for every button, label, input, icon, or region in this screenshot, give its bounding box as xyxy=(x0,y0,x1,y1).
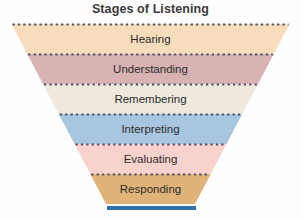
band-label-evaluating: Evaluating xyxy=(0,152,301,166)
band-label-responding: Responding xyxy=(0,182,301,196)
page-title: Stages of Listening xyxy=(0,1,301,17)
base-bar xyxy=(107,206,196,210)
band-label-interpreting: Interpreting xyxy=(0,122,301,136)
funnel-diagram: Stages of Listening HearingUnderstanding… xyxy=(0,0,301,220)
band-label-understanding: Understanding xyxy=(0,62,301,76)
funnel-base-bar xyxy=(107,206,196,210)
band-label-hearing: Hearing xyxy=(0,32,301,46)
band-label-remembering: Remembering xyxy=(0,92,301,106)
funnel-bands xyxy=(12,24,290,204)
